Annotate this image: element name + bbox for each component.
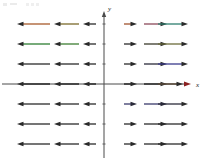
vector-field-figure: y x bbox=[0, 0, 206, 164]
vector-field-plot: y x bbox=[0, 0, 206, 164]
